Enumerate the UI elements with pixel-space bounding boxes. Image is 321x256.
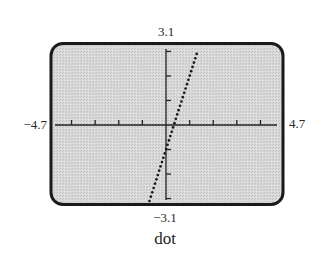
plot-dot bbox=[148, 200, 151, 203]
plot-dot bbox=[183, 91, 186, 94]
plot-dot bbox=[187, 79, 190, 82]
plot-dot bbox=[181, 96, 184, 99]
plot-dot bbox=[158, 169, 161, 172]
plot-dot bbox=[186, 83, 189, 86]
plot-dot bbox=[152, 187, 155, 190]
plot-dot bbox=[162, 156, 165, 159]
plot-dot bbox=[194, 57, 197, 60]
plot-dot bbox=[172, 126, 175, 129]
plot-dot bbox=[159, 165, 162, 168]
plot-dot bbox=[151, 191, 154, 194]
plot-dot bbox=[180, 100, 183, 103]
plot-dot bbox=[195, 53, 198, 56]
plot-dot bbox=[163, 152, 166, 155]
plot-dot bbox=[191, 66, 194, 69]
plot-dot bbox=[175, 117, 178, 120]
plot-dot bbox=[165, 148, 168, 151]
plot-dot bbox=[184, 87, 187, 90]
plot-dot bbox=[154, 182, 157, 185]
plot-dot bbox=[161, 161, 164, 164]
plot-dot bbox=[190, 70, 193, 73]
plot-dot bbox=[156, 174, 159, 177]
plot-dot bbox=[177, 109, 180, 112]
plot-dot bbox=[173, 122, 176, 125]
plot-dot bbox=[170, 130, 173, 133]
plot-dot bbox=[166, 143, 169, 146]
plot-dot bbox=[168, 139, 171, 142]
plot-dot bbox=[179, 104, 182, 107]
screen-frame bbox=[51, 44, 283, 205]
plot-dot bbox=[188, 74, 191, 77]
plot-dot bbox=[193, 61, 196, 64]
plot-dot bbox=[155, 178, 158, 181]
plot-dot bbox=[176, 113, 179, 116]
plot-dot bbox=[150, 195, 153, 198]
calculator-screen bbox=[0, 0, 321, 256]
plot-dot bbox=[169, 135, 172, 138]
